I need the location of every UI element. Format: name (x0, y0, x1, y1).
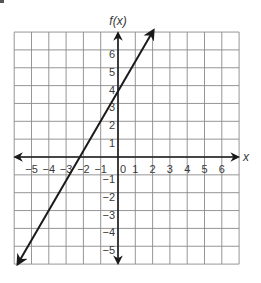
y-tick-label: 1 (109, 137, 115, 149)
x-tick-label: 0 (120, 163, 126, 175)
function-graph: −5−4−3−2−10123456−5−4−3−2−1123456 f(x) x (0, 0, 261, 283)
grid (14, 32, 239, 264)
y-tick-label: −1 (102, 173, 115, 185)
x-tick-label: 1 (132, 163, 138, 175)
y-tick-label: 6 (109, 48, 115, 60)
y-tick-label: 5 (109, 66, 115, 78)
y-tick-label: −2 (102, 191, 115, 203)
y-axis-title: f(x) (109, 14, 126, 28)
x-tick-label: −4 (43, 163, 56, 175)
y-tick-label: 2 (109, 119, 115, 131)
x-tick-label: 5 (201, 163, 207, 175)
x-tick-label: −5 (25, 163, 38, 175)
x-tick-label: 4 (184, 163, 190, 175)
y-tick-label: 4 (109, 84, 115, 96)
x-tick-label: 2 (150, 163, 156, 175)
x-tick-label: −2 (77, 163, 90, 175)
series (18, 30, 154, 264)
x-tick-label: 6 (219, 163, 225, 175)
x-axis-title: x (242, 150, 250, 164)
y-tick-label: −5 (102, 244, 115, 256)
y-tick-label: −3 (102, 209, 115, 221)
y-tick-label: −4 (102, 226, 115, 238)
function-line (18, 30, 154, 264)
x-tick-label: 3 (167, 163, 173, 175)
